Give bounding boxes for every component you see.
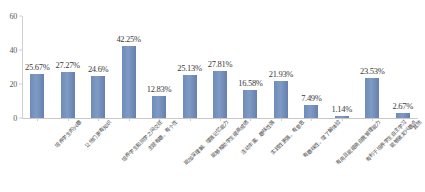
bar-value-label: 42.25%: [116, 34, 140, 44]
bar-group: 7.49%: [296, 16, 326, 118]
bar-value-label: 23.53%: [360, 66, 384, 76]
bar-group: 27.81%: [205, 16, 235, 118]
category-label: 让他们更有知识: [85, 120, 113, 148]
plot-area: 020406025.67%27.27%24.6%42.25%12.83%25.1…: [22, 16, 418, 118]
bar-value-label: 27.27%: [55, 60, 79, 70]
bar-group: 24.6%: [83, 16, 113, 118]
bar-value-label: 25.67%: [25, 62, 49, 72]
bar[interactable]: [243, 90, 257, 118]
bar-value-label: 12.83%: [147, 84, 171, 94]
bar-group: 42.25%: [113, 16, 143, 118]
bar-group: 1.14%: [327, 16, 357, 118]
bar[interactable]: [274, 81, 288, 118]
bar-group: 25.67%: [22, 16, 52, 118]
category-axis-labels: 培养学生的兴趣让他们更有知识培养学生和同学之间交往主题有趣、有个性能加深理解、增…: [22, 120, 418, 190]
bar-group: 27.27%: [52, 16, 82, 118]
bar-chart: 020406025.67%27.27%24.6%42.25%12.83%25.1…: [0, 0, 425, 192]
category-label: 其他: [412, 120, 423, 131]
bar-value-label: 21.93%: [269, 69, 293, 79]
bar-group: 12.83%: [144, 16, 174, 118]
bar-value-label: 2.67%: [393, 101, 413, 111]
bar-value-label: 16.58%: [238, 78, 262, 88]
bar-group: 2.67%: [388, 16, 418, 118]
bar-group: 21.93%: [266, 16, 296, 118]
bar-group: 23.53%: [357, 16, 387, 118]
bar-group: 25.13%: [174, 16, 204, 118]
bar[interactable]: [91, 76, 105, 118]
bar-group: 16.58%: [235, 16, 265, 118]
bar[interactable]: [30, 74, 44, 118]
bar[interactable]: [61, 72, 75, 118]
bar-value-label: 24.6%: [88, 64, 108, 74]
bar[interactable]: [213, 71, 227, 118]
bar[interactable]: [304, 105, 318, 118]
category-label: 有用且能提高自我管理能力: [336, 120, 382, 166]
bar[interactable]: [183, 75, 197, 118]
bar[interactable]: [152, 96, 166, 118]
bar-value-label: 7.49%: [301, 93, 321, 103]
bar-value-label: 27.81%: [208, 59, 232, 69]
category-label: 有趣味性、增了解体验: [302, 120, 341, 159]
bar-value-label: 1.14%: [332, 104, 352, 114]
category-label: 培养学生的兴趣: [54, 120, 82, 148]
category-label: 实践性更强、有意思: [270, 120, 305, 155]
bar[interactable]: [122, 46, 136, 118]
bar-value-label: 25.13%: [177, 63, 201, 73]
bar[interactable]: [365, 78, 379, 118]
